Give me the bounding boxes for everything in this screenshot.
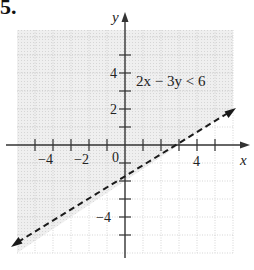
x-tick-label-neg4: −4 — [38, 152, 53, 167]
inequality-label: 2x − 3y < 6 — [136, 73, 206, 89]
x-tick-label-4: 4 — [193, 154, 200, 169]
y-tick-label-2: 2 — [110, 102, 117, 117]
origin-label: 0 — [112, 150, 119, 165]
y-axis-label: y — [110, 9, 119, 25]
y-tick-label-neg4: −4 — [96, 210, 111, 225]
x-axis-label: x — [239, 152, 247, 168]
x-tick-label-neg2: −2 — [74, 152, 89, 167]
y-tick-label-4: 4 — [110, 66, 117, 81]
inequality-graph: y x 0 −4 −2 4 4 2 −4 2x − 3y < 6 — [0, 0, 254, 270]
x-axis-arrow-icon — [240, 142, 250, 149]
y-axis-arrow-icon — [122, 12, 129, 22]
